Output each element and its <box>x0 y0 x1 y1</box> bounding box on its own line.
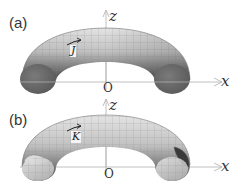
panel-b: (b) z x O K <box>0 95 240 190</box>
origin-label-b: O <box>104 167 114 181</box>
origin-label-a: O <box>103 81 113 95</box>
torus-diagram-b <box>0 95 240 190</box>
z-axis-label-b: z <box>109 96 117 114</box>
panel-label-a: (a) <box>9 14 27 31</box>
panel-label-b: (b) <box>9 111 27 128</box>
vector-label-k: K <box>71 131 81 143</box>
vector-label-j: J <box>70 45 76 57</box>
x-axis-label-b: x <box>221 157 229 175</box>
end-cap-left-a <box>20 64 56 94</box>
torus-diagram-a <box>0 0 240 95</box>
panel-a: (a) z x O J <box>0 0 240 95</box>
z-axis-label-a: z <box>109 7 117 25</box>
end-cap-right-a <box>154 64 190 94</box>
x-axis-label-a: x <box>221 72 229 90</box>
